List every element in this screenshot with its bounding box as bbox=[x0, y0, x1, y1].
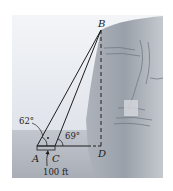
angle-label-C: 69° bbox=[65, 131, 80, 141]
cliff-highlight bbox=[124, 100, 138, 116]
label-B: B bbox=[97, 18, 105, 29]
angle-label-A: 62° bbox=[19, 116, 34, 126]
distance-label: 100 ft bbox=[43, 167, 69, 177]
label-C: C bbox=[52, 153, 60, 164]
cliff-diagram: B A C D 62° 69° 100 ft bbox=[0, 0, 173, 191]
angle-dot bbox=[47, 137, 49, 139]
diagram-canvas: B A C D 62° 69° 100 ft bbox=[0, 0, 173, 191]
label-D: D bbox=[97, 148, 106, 159]
label-A: A bbox=[31, 153, 39, 164]
